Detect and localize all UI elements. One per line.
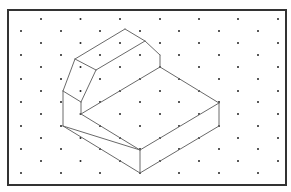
grid-dot	[119, 66, 121, 68]
grid-dot	[40, 160, 42, 162]
grid-dot	[198, 160, 200, 162]
grid-dot	[20, 78, 22, 80]
grid-dot	[40, 18, 42, 20]
grid-dot	[40, 90, 42, 92]
grid-dot	[257, 54, 259, 56]
grid-dot	[80, 160, 82, 162]
grid-dot	[237, 18, 239, 20]
grid-dot	[60, 125, 62, 127]
grid-dot	[277, 66, 279, 68]
grid-dot	[40, 113, 42, 115]
grid-dot	[60, 101, 62, 103]
grid-dot	[277, 160, 279, 162]
grid-dot	[20, 30, 22, 32]
grid-dot	[139, 30, 141, 32]
grid-dot	[159, 113, 161, 115]
grid-dot	[237, 160, 239, 162]
grid-dot	[277, 113, 279, 115]
grid-dot	[60, 78, 62, 80]
grid-dot	[198, 18, 200, 20]
grid-dot	[178, 30, 180, 32]
grid-dot	[237, 42, 239, 44]
grid-dot	[257, 101, 259, 103]
grid-dot	[99, 54, 101, 56]
grid-dot	[60, 172, 62, 174]
grid-dot	[198, 66, 200, 68]
grid-dot	[277, 90, 279, 92]
grid-dot	[218, 78, 220, 80]
grid-dot	[277, 18, 279, 20]
drawing-frame	[8, 10, 286, 185]
grid-dot	[99, 30, 101, 32]
grid-dot	[20, 101, 22, 103]
grid-dot	[119, 42, 121, 44]
grid-dot	[139, 101, 141, 103]
grid-dot	[40, 42, 42, 44]
grid-dot	[178, 54, 180, 56]
grid-dot	[277, 137, 279, 139]
grid-dot	[80, 42, 82, 44]
grid-dot	[277, 42, 279, 44]
grid-dot	[99, 172, 101, 174]
grid-dot	[257, 148, 259, 150]
grid-dot	[218, 30, 220, 32]
grid-dot	[119, 113, 121, 115]
grid-dot	[80, 66, 82, 68]
grid-dot	[80, 90, 82, 92]
grid-dot	[198, 42, 200, 44]
grid-dot	[119, 18, 121, 20]
grid-dot	[237, 113, 239, 115]
grid-dot	[60, 54, 62, 56]
grid-dot	[237, 66, 239, 68]
grid-dot	[159, 90, 161, 92]
grid-dot	[237, 90, 239, 92]
grid-dot	[218, 54, 220, 56]
grid-dot	[257, 78, 259, 80]
grid-dot	[40, 137, 42, 139]
grid-dot	[257, 172, 259, 174]
grid-dot	[20, 125, 22, 127]
grid-dot	[60, 148, 62, 150]
grid-dot	[257, 30, 259, 32]
isometric-drawing-canvas	[0, 0, 291, 192]
grid-dot	[218, 148, 220, 150]
grid-dot	[237, 137, 239, 139]
grid-dot	[139, 125, 141, 127]
grid-dot	[40, 66, 42, 68]
grid-dot	[257, 125, 259, 127]
grid-dot	[178, 101, 180, 103]
grid-dot	[159, 42, 161, 44]
grid-dot	[178, 172, 180, 174]
grid-dot	[60, 30, 62, 32]
grid-dot	[218, 172, 220, 174]
grid-dot	[20, 172, 22, 174]
grid-dot	[80, 18, 82, 20]
grid-dot	[20, 54, 22, 56]
grid-dot	[99, 78, 101, 80]
grid-dot	[139, 54, 141, 56]
grid-dot	[20, 148, 22, 150]
grid-dot	[159, 18, 161, 20]
